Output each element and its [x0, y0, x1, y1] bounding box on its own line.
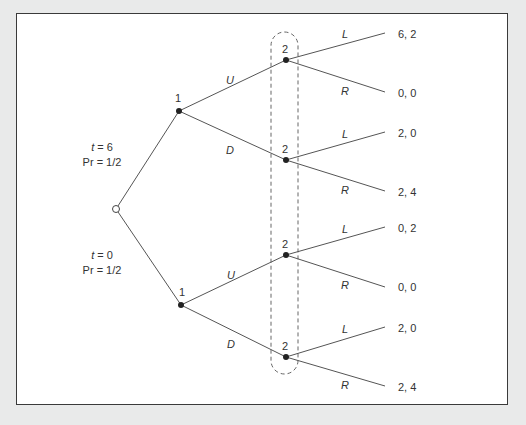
action-label-R-4: R: [341, 379, 349, 391]
action-label-U-bottom: U: [227, 269, 235, 281]
player1-node-top: [176, 108, 182, 114]
payoff-4: 2, 4: [398, 186, 416, 198]
payoff-6: 0, 0: [398, 281, 416, 293]
player2-node-2: [283, 157, 289, 163]
payoff-8: 2, 4: [398, 381, 416, 393]
action-label-L-2: L: [342, 128, 348, 140]
edge-p2a-L: [286, 33, 385, 60]
action-label-R-2: R: [341, 184, 349, 196]
player2-node-4: [283, 354, 289, 360]
player2-label-3: 2: [282, 238, 288, 250]
chance-prob-label-bottom: Pr = 1/2: [83, 264, 122, 276]
chance-prob-label-top: Pr = 1/2: [83, 156, 122, 168]
payoff-5: 0, 2: [398, 222, 416, 234]
edge-p2b-L: [286, 132, 385, 160]
edge-p2a-R: [286, 60, 385, 92]
action-label-U-top: U: [226, 74, 234, 86]
action-label-L-3: L: [342, 223, 348, 235]
action-label-L-1: L: [342, 28, 348, 40]
edge-p2d-R: [286, 357, 385, 386]
edge-p2c-L: [286, 227, 385, 255]
action-label-L-4: L: [342, 323, 348, 335]
game-tree: t = 6 Pr = 1/2 t = 0 Pr = 1/2 1 1 2 2 2 …: [0, 0, 526, 425]
chance-type-label-top: t = 6: [91, 141, 113, 153]
edge-p2c-R: [286, 255, 385, 287]
player2-label-2: 2: [282, 143, 288, 155]
payoff-7: 2, 0: [398, 322, 416, 334]
player1-label-top: 1: [175, 92, 181, 104]
action-label-R-3: R: [341, 279, 349, 291]
action-label-D-bottom: D: [227, 338, 235, 350]
player2-node-1: [283, 57, 289, 63]
edge-p2d-L: [286, 327, 385, 357]
information-set-player2: [271, 32, 298, 374]
payoff-3: 2, 0: [398, 127, 416, 139]
payoff-1: 6, 2: [398, 28, 416, 40]
player2-node-3: [283, 252, 289, 258]
action-label-D-top: D: [226, 144, 234, 156]
chance-node: [113, 206, 120, 213]
edge-p2b-R: [286, 160, 385, 191]
chance-type-label-bottom: t = 0: [91, 249, 113, 261]
action-label-R-1: R: [341, 85, 349, 97]
payoff-2: 0, 0: [398, 87, 416, 99]
player1-node-bottom: [178, 302, 184, 308]
edge-chance-t6: [116, 111, 179, 209]
edge-chance-t0: [116, 209, 181, 305]
player2-label-4: 2: [282, 340, 288, 352]
player1-label-bottom: 1: [179, 286, 185, 298]
player2-label-1: 2: [282, 43, 288, 55]
